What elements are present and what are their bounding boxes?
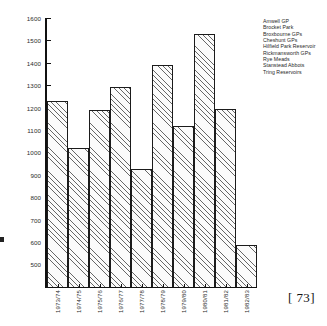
bar-series xyxy=(47,19,257,287)
y-tick-label: 900 xyxy=(30,171,41,178)
y-tick-label: 500 xyxy=(30,261,41,268)
y-tick-label: 1100 xyxy=(27,127,41,134)
x-label-slot: 1974/75 xyxy=(68,290,89,324)
legend: Amwell GPBrocket ParkBroxbourne GPsChesh… xyxy=(263,18,327,75)
x-axis-label: 1976/77 xyxy=(118,290,124,313)
plot-area: 5006007008009001000110012001300140015001… xyxy=(45,18,257,288)
x-axis-label: 1978/79 xyxy=(160,290,166,313)
bar-slot xyxy=(194,19,215,287)
x-label-slot: 1978/79 xyxy=(152,290,173,324)
bar-1973-74 xyxy=(47,101,68,287)
bar-slot xyxy=(68,19,89,287)
x-label-slot: 1979/80 xyxy=(173,290,194,324)
y-tick-label: 700 xyxy=(30,216,41,223)
bar-slot xyxy=(215,19,236,287)
legend-item-8: Tring Reservoirs xyxy=(263,69,327,75)
bar-1981-82 xyxy=(215,109,236,287)
y-tick-label: 1300 xyxy=(27,82,41,89)
y-tick-label: 600 xyxy=(30,239,41,246)
bar-1978-79 xyxy=(152,65,173,287)
y-tick-label: 800 xyxy=(30,194,41,201)
x-axis-line xyxy=(45,287,257,288)
x-axis-labels: 1973/741974/751975/761976/771977/781978/… xyxy=(47,290,259,324)
bar-1982-83 xyxy=(236,245,257,286)
x-axis-label: 1981/82 xyxy=(223,290,229,313)
bar-slot xyxy=(173,19,194,287)
y-tick-label: 1500 xyxy=(27,37,41,44)
bar-slot xyxy=(110,19,131,287)
bar-slot xyxy=(47,19,68,287)
bar-1975-76 xyxy=(89,110,110,287)
bar-1980-81 xyxy=(194,34,215,287)
bar-1977-78 xyxy=(131,169,152,287)
x-label-slot: 1975/76 xyxy=(89,290,110,324)
bar-1974-75 xyxy=(68,148,89,286)
y-tick-label: 1000 xyxy=(27,149,41,156)
bar-slot xyxy=(152,19,173,287)
x-label-slot: 1976/77 xyxy=(110,290,131,324)
bar-slot xyxy=(89,19,110,287)
bar-slot xyxy=(131,19,152,287)
x-axis-label: 1975/76 xyxy=(97,290,103,313)
x-axis-label: 1980/81 xyxy=(202,290,208,313)
x-label-slot: 1980/81 xyxy=(194,290,215,324)
y-tick-label: 1600 xyxy=(27,15,41,22)
x-label-slot: 1973/74 xyxy=(47,290,68,324)
x-label-slot: 1982/83 xyxy=(236,290,257,324)
x-axis-label: 1979/80 xyxy=(181,290,187,313)
y-tick-label: 1200 xyxy=(27,104,41,111)
page-number: [ 73] xyxy=(288,290,315,306)
bar-slot xyxy=(236,19,257,287)
margin-mark xyxy=(0,237,4,242)
x-axis-label: 1977/78 xyxy=(139,290,145,313)
x-axis-label: 1973/74 xyxy=(55,290,61,313)
bar-1979-80 xyxy=(173,126,194,287)
x-axis-label: 1982/83 xyxy=(244,290,250,313)
bar-1976-77 xyxy=(110,87,131,287)
x-axis-label: 1974/75 xyxy=(76,290,82,313)
x-label-slot: 1981/82 xyxy=(215,290,236,324)
x-label-slot: 1977/78 xyxy=(131,290,152,324)
y-tick-label: 1400 xyxy=(27,59,41,66)
chart-page: 5006007008009001000110012001300140015001… xyxy=(0,0,327,326)
